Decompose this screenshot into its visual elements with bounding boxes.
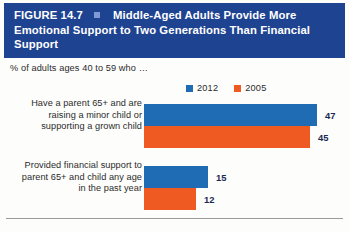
bar-row: 47 (144, 104, 335, 126)
bar-group: Have a parent 65+ and are raising a mino… (0, 100, 349, 144)
bar-group: Provided financial support to parent 65+… (0, 162, 349, 206)
chart-plot-area: Have a parent 65+ and are raising a mino… (0, 100, 349, 206)
figure-container: FIGURE 14.7Middle-Aged Adults Provide Mo… (0, 0, 349, 232)
legend-item-2005: 2005 (234, 83, 266, 93)
bar-2005 (144, 188, 196, 210)
bar-2012 (144, 104, 317, 126)
legend-swatch-2005 (234, 85, 241, 92)
figure-header-band: FIGURE 14.7Middle-Aged Adults Provide Mo… (4, 3, 345, 58)
figure-number: FIGURE 14.7 (14, 9, 83, 21)
bar-value-2005: 12 (204, 194, 214, 205)
chart-legend: 2012 2005 (186, 83, 267, 93)
bar-2012 (144, 166, 208, 188)
square-bullet-icon (94, 12, 100, 18)
bar-value-2005: 45 (318, 132, 328, 143)
bar-group-bars: 15 12 (144, 166, 226, 210)
legend-item-2012: 2012 (186, 83, 218, 93)
legend-label-2005: 2005 (245, 83, 266, 93)
bar-2005 (144, 126, 310, 148)
bar-value-2012: 15 (216, 172, 226, 183)
bar-group-label: Have a parent 65+ and are raising a mino… (17, 98, 142, 133)
bar-value-2012: 47 (325, 110, 335, 121)
figure-header-text: FIGURE 14.7Middle-Aged Adults Provide Mo… (14, 8, 336, 52)
bar-row: 15 (144, 166, 226, 188)
legend-swatch-2012 (186, 85, 193, 92)
chart-subtitle: % of adults ages 40 to 59 who … (10, 63, 148, 73)
bottom-rule (6, 218, 343, 219)
bar-group-bars: 47 45 (144, 104, 335, 148)
bar-row: 45 (144, 126, 335, 148)
bar-row: 12 (144, 188, 226, 210)
bar-group-label: Provided financial support to parent 65+… (17, 160, 142, 195)
legend-label-2012: 2012 (197, 83, 218, 93)
